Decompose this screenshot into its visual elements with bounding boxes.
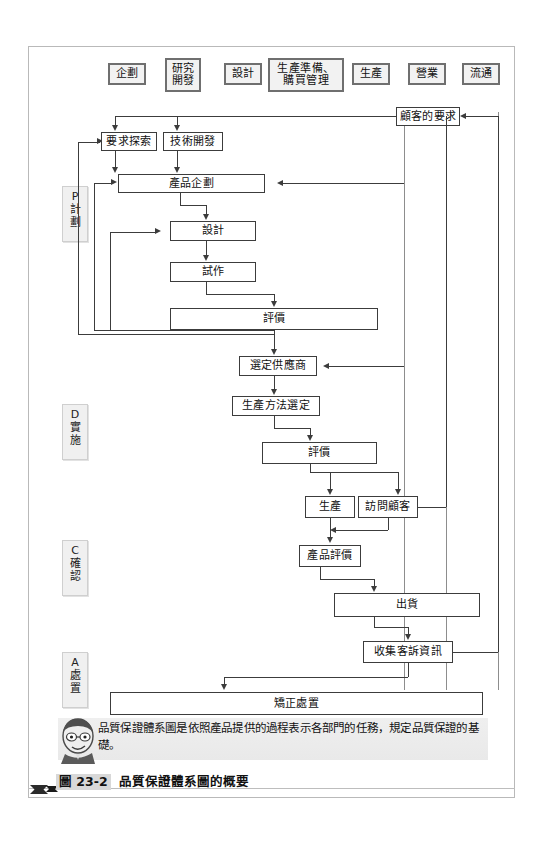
design-feedback-h bbox=[110, 232, 156, 233]
customer-req-bus bbox=[115, 116, 396, 117]
node-customer-requirement: 顧客的要求 bbox=[396, 107, 460, 126]
plan-infeed-h bbox=[283, 183, 404, 184]
node-prototype: 試作 bbox=[170, 262, 256, 282]
dept-chip-planning: 企劃 bbox=[108, 63, 146, 85]
node-product-planning: 產品企劃 bbox=[118, 174, 265, 193]
node-corrective-action: 矯正處置 bbox=[110, 692, 483, 715]
claims-to-corrective-h bbox=[224, 677, 408, 678]
node-label: 要求探索 bbox=[106, 136, 151, 148]
dept-chip-logistics: 流通 bbox=[462, 63, 500, 85]
node-production-method: 生產方法選定 bbox=[232, 396, 320, 416]
phase-letter: A bbox=[71, 656, 79, 669]
design-feedback-v bbox=[110, 232, 111, 330]
evald-split-h bbox=[310, 472, 398, 473]
claims-to-corrective-v1 bbox=[408, 663, 409, 677]
method-to-evald-v1 bbox=[274, 416, 275, 428]
proto-to-eval-v1 bbox=[206, 282, 207, 294]
node-label: 評價 bbox=[263, 313, 286, 325]
phase-tab-P: P 計 劃 bbox=[62, 186, 88, 242]
node-label: 訪問顧客 bbox=[365, 501, 410, 513]
method-to-evald-h bbox=[274, 428, 310, 429]
node-select-supplier: 選定供應商 bbox=[239, 356, 317, 376]
eval-to-supplier-arrow bbox=[271, 349, 277, 355]
node-collect-claims: 收集客訴資訊 bbox=[363, 641, 453, 663]
peval-to-ship-h bbox=[320, 579, 374, 580]
claims-out-rail-v bbox=[498, 116, 499, 652]
phase-tab-D: D 實 施 bbox=[62, 404, 88, 460]
node-label: 顧客的要求 bbox=[400, 111, 457, 123]
production-to-peval-arrow bbox=[327, 537, 333, 543]
evald-to-production-v bbox=[330, 472, 331, 490]
phase-tab-C: C 確 認 bbox=[62, 540, 88, 596]
node-label: 出貨 bbox=[396, 599, 419, 611]
visit-to-peval-v bbox=[388, 518, 389, 530]
dept-chip-rnd: 研究 開發 bbox=[165, 58, 201, 92]
dept-label: 企劃 bbox=[116, 68, 139, 80]
visit-to-peval-h bbox=[336, 530, 388, 531]
evald-to-production-arrow bbox=[327, 489, 333, 495]
method-to-evald-arrow bbox=[307, 435, 313, 441]
feedback-rail-inner-h-top bbox=[94, 183, 112, 184]
node-label: 收集客訴資訊 bbox=[374, 646, 442, 658]
phase-letter: C bbox=[71, 544, 79, 557]
req-explore-to-plan-v bbox=[115, 151, 116, 168]
node-production: 生產 bbox=[305, 496, 355, 518]
supplier-infeed-h bbox=[329, 366, 404, 367]
phase-char: 處 bbox=[70, 669, 81, 682]
bus-arrow-tech-dev bbox=[174, 125, 180, 131]
node-label: 技術開發 bbox=[170, 136, 215, 148]
visit-out-h bbox=[418, 507, 446, 508]
proto-to-eval-h bbox=[206, 294, 274, 295]
page-frame bbox=[28, 46, 515, 798]
feedback-rail-inner-arrow bbox=[111, 179, 117, 185]
node-shipment: 出貨 bbox=[334, 593, 480, 617]
node-label: 選定供應商 bbox=[250, 360, 307, 372]
design-to-proto-v bbox=[206, 241, 207, 256]
phase-char: 認 bbox=[70, 570, 81, 583]
dept-label: 營業 bbox=[416, 68, 439, 80]
node-label: 試作 bbox=[202, 266, 225, 278]
feedback-rail-outer-v bbox=[78, 142, 79, 334]
req-explore-to-plan-arrow bbox=[112, 167, 118, 173]
phase-char: 確 bbox=[70, 557, 81, 570]
phase-char: 實 bbox=[70, 421, 81, 434]
visit-to-peval-arrow bbox=[330, 527, 336, 533]
ship-to-claims-arrow bbox=[405, 634, 411, 640]
node-evaluation-plan: 評價 bbox=[170, 308, 378, 330]
tech-dev-to-plan-arrow bbox=[174, 167, 180, 173]
plan-to-design-h bbox=[180, 205, 206, 206]
design-feedback-arrow bbox=[155, 228, 161, 234]
ship-to-claims-h bbox=[374, 627, 408, 628]
feedback-rail-inner-v bbox=[94, 183, 95, 330]
dept-label: 生產 bbox=[360, 68, 383, 80]
node-technology-development: 技術開發 bbox=[163, 132, 223, 151]
proto-to-eval-arrow bbox=[271, 301, 277, 307]
dept-chip-production: 生產 bbox=[352, 63, 390, 85]
phase-char: 置 bbox=[70, 682, 81, 695]
node-label: 矯正處置 bbox=[274, 698, 319, 710]
dept-chip-prod-prep: 生產準備、 購買管理 bbox=[268, 58, 344, 92]
claims-to-corrective-arrow bbox=[221, 684, 227, 690]
dept-chip-sales: 營業 bbox=[408, 63, 446, 85]
evald-split-v bbox=[310, 464, 311, 472]
dept-label: 設計 bbox=[232, 68, 255, 80]
supplier-infeed-arrow bbox=[323, 363, 329, 369]
peval-to-ship-arrow bbox=[371, 586, 377, 592]
peval-to-ship-v1 bbox=[320, 567, 321, 579]
phase-tab-A: A 處 置 bbox=[62, 652, 88, 708]
node-requirement-exploration: 要求探索 bbox=[101, 132, 157, 151]
dept-label: 購買管理 bbox=[283, 75, 329, 87]
evald-to-visit-arrow bbox=[395, 489, 401, 495]
visit-out-rail-v bbox=[446, 116, 447, 507]
node-visit-customer: 訪問顧客 bbox=[358, 496, 418, 518]
supplier-to-method-arrow bbox=[271, 389, 277, 395]
plan-to-design-v1 bbox=[180, 193, 181, 205]
customer-req-infeed-arrow bbox=[460, 113, 466, 119]
feedback-rail-outer-h-bottom bbox=[78, 334, 274, 335]
customer-req-infeed-h bbox=[466, 116, 498, 117]
figure-page: 企劃 研究 開發 設計 生產準備、 購買管理 生產 營業 流通 P 計 劃 D … bbox=[0, 0, 543, 844]
node-evaluation-do: 評價 bbox=[262, 442, 377, 464]
ship-to-claims-v1 bbox=[374, 617, 375, 627]
advisor-avatar-icon bbox=[56, 716, 100, 764]
node-label: 產品評價 bbox=[307, 550, 352, 562]
